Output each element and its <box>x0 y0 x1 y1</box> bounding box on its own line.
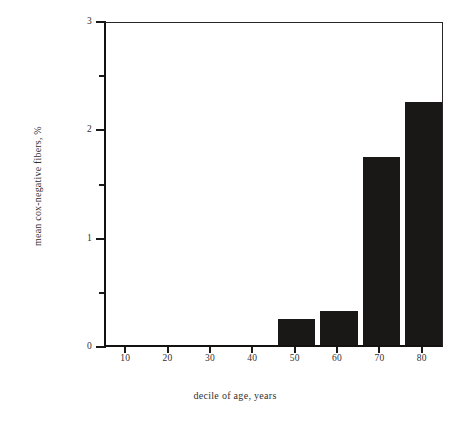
x-tick-label-10: 10 <box>110 353 140 364</box>
bar-70 <box>363 157 400 346</box>
x-tick-label-60: 60 <box>322 353 352 364</box>
y-tick-label-2: 2 <box>68 125 92 135</box>
y-tick-label-0: 0 <box>68 342 92 352</box>
bar-80 <box>405 102 442 345</box>
bars-layer <box>106 23 442 345</box>
x-tick-label-50: 50 <box>280 353 310 364</box>
x-tick-label-80: 80 <box>407 353 437 364</box>
x-tick-label-20: 20 <box>153 353 183 364</box>
bar-chart-figure: 3210 1020304050607080 mean cox-negative … <box>0 0 470 424</box>
bar-50 <box>278 319 315 345</box>
x-axis-label: decile of age, years <box>0 390 470 402</box>
x-tick-label-40: 40 <box>237 353 267 364</box>
y-tick-label-3: 3 <box>68 17 92 27</box>
y-tick-label-1: 1 <box>68 234 92 244</box>
x-tick-label-30: 30 <box>195 353 225 364</box>
x-tick-label-70: 70 <box>364 353 394 364</box>
plot-area <box>104 22 443 347</box>
y-axis-label: mean cox-negative fibers, % <box>32 86 44 286</box>
bar-60 <box>320 311 357 345</box>
